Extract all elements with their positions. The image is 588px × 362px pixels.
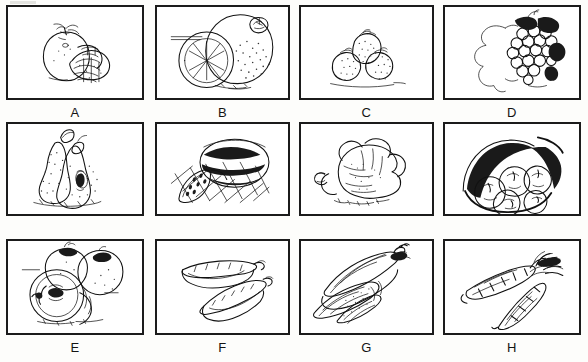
apple-icon [8, 241, 142, 333]
panel-a[interactable] [6, 5, 144, 100]
potato-icon [445, 124, 579, 214]
panel-cell-a[interactable]: A [6, 5, 144, 100]
picture-grid-sheet: A [0, 0, 588, 362]
panel-l[interactable] [443, 239, 581, 335]
cabbage-icon [301, 124, 432, 214]
panel-cell-c[interactable]: C [299, 5, 434, 100]
carrot-icon [445, 241, 579, 333]
tomato-icon [8, 7, 142, 98]
grapes-icon [445, 7, 579, 98]
pea-pod-icon [157, 241, 288, 333]
panel-g[interactable] [299, 122, 434, 216]
panel-b[interactable] [155, 5, 290, 100]
panel-c[interactable] [299, 5, 434, 100]
panel-label-b: B [155, 106, 290, 119]
panel-j[interactable] [155, 239, 290, 335]
panel-i[interactable] [6, 239, 144, 335]
panel-cell-g[interactable]: G [299, 122, 434, 216]
panel-f[interactable] [155, 122, 290, 216]
panel-label-f: F [155, 341, 290, 354]
orange-icon [157, 7, 288, 98]
panel-cell-d[interactable]: D [443, 5, 581, 100]
panel-cell-e[interactable]: E [6, 122, 144, 216]
panel-label-h: H [443, 341, 581, 354]
panel-cell-b[interactable]: B [155, 5, 290, 100]
panel-label-g: G [299, 341, 434, 354]
panel-cell-h[interactable]: H [443, 122, 581, 216]
panel-d[interactable] [443, 5, 581, 100]
panel-cell-f[interactable]: F [155, 122, 290, 216]
panel-cell-j[interactable]: J [155, 239, 290, 335]
strawberry-icon [301, 7, 432, 98]
panel-label-e: E [6, 341, 144, 354]
panel-k[interactable] [299, 239, 434, 335]
watermelon-icon [157, 124, 288, 214]
panel-grid: A [0, 0, 588, 362]
panel-label-d: D [443, 106, 581, 119]
panel-label-c: C [299, 106, 434, 119]
pear-icon [8, 124, 142, 214]
panel-e[interactable] [6, 122, 144, 216]
corn-icon [301, 241, 432, 333]
panel-cell-k[interactable]: K [299, 239, 434, 335]
panel-cell-l[interactable]: L [443, 239, 581, 335]
panel-label-a: A [6, 106, 144, 119]
panel-cell-i[interactable]: I [6, 239, 144, 335]
panel-h[interactable] [443, 122, 581, 216]
